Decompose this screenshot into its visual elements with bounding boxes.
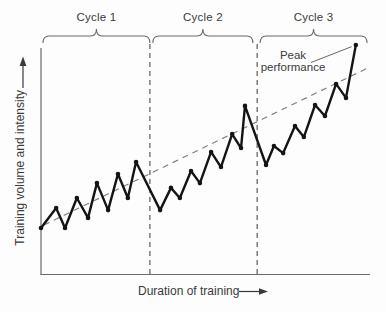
data-point-marker-25 — [313, 103, 318, 108]
data-point-marker-9 — [134, 160, 139, 165]
data-point-marker-14 — [198, 181, 203, 186]
cycle-3-label: Cycle 3 — [294, 11, 334, 23]
data-point-marker-13 — [189, 169, 194, 174]
data-point-marker-17 — [230, 132, 235, 137]
data-point-marker-18 — [239, 146, 244, 151]
right-arrow-head-icon — [259, 288, 268, 295]
data-point-marker-26 — [323, 114, 328, 119]
data-point-marker-27 — [334, 82, 339, 87]
data-point-marker-22 — [281, 151, 286, 156]
data-point-marker-29 — [354, 43, 359, 48]
data-point-marker-19 — [243, 104, 248, 109]
cycle-2-brace — [153, 29, 253, 43]
cycle-1-brace — [43, 29, 150, 43]
chart-canvas — [0, 0, 386, 312]
data-point-marker-15 — [209, 150, 214, 155]
x-axis-label: Duration of training — [138, 284, 239, 298]
data-point-marker-28 — [344, 96, 349, 101]
periodization-chart: Cycle 1 Cycle 2 Cycle 3 Peak performance… — [0, 0, 386, 312]
data-point-marker-20 — [264, 163, 269, 168]
data-point-marker-10 — [158, 208, 163, 213]
data-point-marker-12 — [178, 196, 183, 201]
peak-performance-annotation: Peak performance — [253, 50, 333, 73]
cycle-3-brace — [260, 29, 367, 43]
data-point-marker-8 — [126, 196, 131, 201]
data-point-marker-6 — [106, 208, 111, 213]
data-point-marker-5 — [95, 181, 100, 186]
cycle-1-label: Cycle 1 — [77, 11, 117, 23]
data-point-marker-24 — [302, 135, 307, 140]
data-point-marker-21 — [272, 144, 277, 149]
cycle-2-label: Cycle 2 — [183, 11, 223, 23]
data-point-marker-16 — [219, 165, 224, 170]
data-point-marker-23 — [293, 124, 298, 129]
y-axis-label: Training volume and intensity — [13, 90, 27, 246]
data-point-marker-0 — [39, 226, 44, 231]
data-point-marker-7 — [116, 172, 121, 177]
data-point-marker-11 — [169, 186, 174, 191]
data-point-marker-4 — [86, 216, 91, 221]
data-point-marker-2 — [63, 226, 68, 231]
up-arrow-head-icon — [20, 57, 27, 67]
data-point-marker-3 — [75, 196, 80, 201]
data-point-marker-1 — [54, 206, 59, 211]
